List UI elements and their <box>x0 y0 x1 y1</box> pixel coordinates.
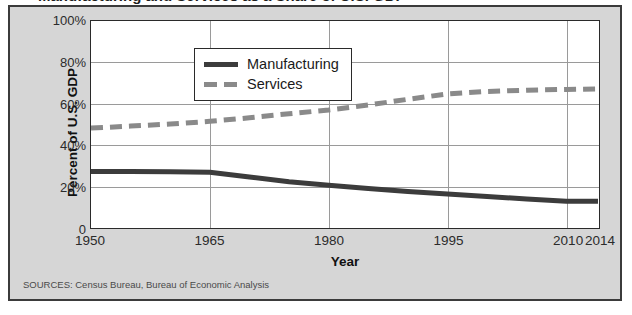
x-tick-label: 2010 <box>553 233 583 248</box>
x-tick-label: 1950 <box>75 233 105 248</box>
chart-panel: Percent of U.S. GDP 100% 80% 60% 40% 20%… <box>8 5 622 301</box>
legend-item-services: Services <box>204 74 339 94</box>
y-tick-label: 20% <box>60 180 86 195</box>
legend-swatch-services <box>204 82 238 87</box>
y-tick-label: 40% <box>60 138 86 153</box>
legend-swatch-manufacturing <box>204 62 238 67</box>
x-axis-title: Year <box>90 254 600 269</box>
series-line-manufacturing <box>91 171 598 201</box>
y-axis-tick-labels: 100% 80% 60% 40% 20% 0 <box>34 20 86 229</box>
x-tick-label: 2014 <box>585 233 615 248</box>
chart-title-text: Manufacturing and Services as a Share of… <box>38 0 406 4</box>
x-tick-label: 1980 <box>314 233 344 248</box>
y-tick-label: 60% <box>60 96 86 111</box>
x-axis-tick-labels: 1950 1965 1980 1995 2010 2014 <box>90 233 600 253</box>
legend-label-manufacturing: Manufacturing <box>247 56 339 72</box>
y-tick-label: 100% <box>53 13 86 28</box>
x-tick-label: 1995 <box>434 233 464 248</box>
x-tick-label: 1965 <box>195 233 225 248</box>
chart-figure: Manufacturing and Services as a Share of… <box>0 0 632 315</box>
legend-item-manufacturing: Manufacturing <box>204 54 339 74</box>
sources-note: SOURCES: Census Bureau, Bureau of Econom… <box>23 279 269 290</box>
legend-label-services: Services <box>247 76 303 92</box>
plot-area: Manufacturing Services <box>90 20 600 229</box>
y-tick-label: 80% <box>60 54 86 69</box>
chart-legend: Manufacturing Services <box>194 48 352 101</box>
